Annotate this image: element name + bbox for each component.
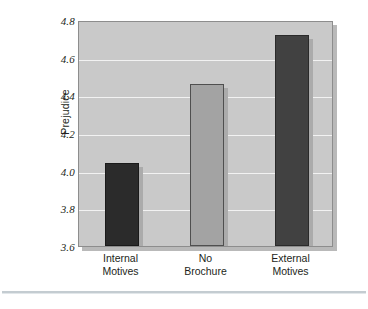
x-axis-tick-labels: InternalMotivesNoBrochureExternalMotives [78, 252, 333, 292]
x-tick-label-line: Brochure [161, 265, 251, 278]
x-tick-label-line: Motives [76, 265, 166, 278]
y-tick-label: 4.2 [42, 129, 75, 140]
y-tick-label: 3.6 [42, 242, 75, 253]
y-tick-label: 4.0 [42, 167, 75, 178]
y-tick-label: 4.4 [42, 91, 75, 102]
bar-group [190, 84, 224, 246]
x-tick-label-line: No [161, 252, 251, 265]
bar-chart-figure: Prejudice 4.84.64.44.24.03.83.6 Internal… [0, 0, 368, 309]
y-tick-label: 4.8 [42, 16, 75, 27]
footer-rule-highlight [2, 293, 366, 294]
y-axis-tick-labels: 4.84.64.44.24.03.83.6 [42, 0, 75, 309]
bar [275, 35, 309, 246]
x-tick-label-line: External [246, 252, 336, 265]
bar-group [275, 35, 309, 246]
plot-area [78, 21, 333, 247]
bar [105, 163, 139, 246]
x-tick-label: ExternalMotives [246, 252, 336, 278]
x-tick-label-line: Motives [246, 265, 336, 278]
x-tick-label-line: Internal [76, 252, 166, 265]
x-tick-label: NoBrochure [161, 252, 251, 278]
bar [190, 84, 224, 246]
x-tick-label: InternalMotives [76, 252, 166, 278]
bar-series [79, 22, 332, 246]
y-tick-label: 4.6 [42, 54, 75, 65]
bar-group [105, 163, 139, 246]
y-tick-label: 3.8 [42, 204, 75, 215]
